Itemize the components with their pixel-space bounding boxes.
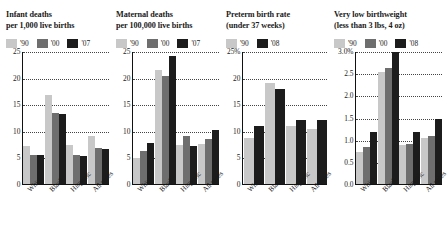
bar (265, 83, 275, 185)
plot-area: 0510152025%WhiteBlackHispanicAll races (243, 52, 327, 185)
chart-panel-0: Infant deaths per 1,000 live births'90'0… (0, 10, 110, 242)
legend-swatch-icon (257, 39, 268, 48)
bar (66, 145, 73, 185)
bar (52, 113, 59, 185)
legend-swatch-icon (147, 39, 158, 48)
plot-wrapper: 0.00.51.01.52.02.53.0%WhiteBlackHispanic… (356, 52, 445, 185)
y-axis-tick-label: 3.0% (338, 48, 356, 55)
y-axis-line (22, 52, 23, 185)
legend-label: '08 (409, 39, 418, 48)
bar-group (198, 52, 219, 185)
y-axis-line (242, 52, 243, 185)
legend-entry: '00 (37, 39, 60, 48)
bar (133, 158, 140, 185)
x-axis-labels: WhiteBlackHispanicAll races (23, 185, 109, 225)
legend-swatch-icon (395, 39, 406, 48)
legend-label: '00 (161, 39, 170, 48)
bar (176, 145, 183, 185)
plot-area: 0510152025WhiteBlackHispanicAll races (133, 52, 219, 185)
bar-group (176, 52, 197, 185)
bar (399, 145, 406, 185)
bar-group (45, 52, 66, 185)
chart-title: Infant deaths per 1,000 live births (6, 10, 110, 31)
bar-group (356, 52, 377, 185)
bar-group (421, 52, 442, 185)
legend-label: '90 (20, 39, 29, 48)
bar-group (399, 52, 420, 185)
bar-group (307, 52, 327, 185)
bar-group (244, 52, 264, 185)
bar-group (23, 52, 44, 185)
x-axis-labels: WhiteBlackHispanicAll races (133, 185, 219, 225)
bars-layer (356, 52, 442, 185)
y-axis-line (132, 52, 133, 185)
legend-entry: '08 (257, 39, 280, 48)
legend-swatch-icon (177, 39, 188, 48)
legend-label: '07 (81, 39, 90, 48)
bar-group (155, 52, 176, 185)
legend-entry: '08 (395, 39, 418, 48)
legend-label: '90 (240, 39, 249, 48)
legend-label: '08 (271, 39, 280, 48)
bar (155, 70, 162, 185)
legend-swatch-icon (37, 39, 48, 48)
bar-group (88, 52, 109, 185)
legend-entry: '00 (365, 39, 388, 48)
plot-area: 0510152025WhiteBlackHispanicAll races (23, 52, 109, 185)
chart-panel-1: Maternal deaths per 100,000 live births'… (110, 10, 220, 242)
bars-layer (133, 52, 219, 185)
legend-label: '00 (51, 39, 60, 48)
legend-entry: '07 (67, 39, 90, 48)
bar (59, 114, 66, 185)
bar (275, 89, 285, 185)
legend-label: '07 (191, 39, 200, 48)
bar-group (265, 52, 285, 185)
x-axis-labels: WhiteBlackHispanicAll races (243, 185, 327, 225)
bar-group (286, 52, 306, 185)
bar (378, 72, 385, 185)
bar (45, 95, 52, 185)
legend-label: '90 (130, 39, 139, 48)
bars-layer (243, 52, 327, 185)
bar (23, 146, 30, 185)
bar (162, 76, 169, 185)
chart-title: Very low birthweight (less than 3 lbs, 4… (334, 10, 445, 31)
x-axis-labels: WhiteBlackHispanicAll races (356, 185, 442, 225)
bar (385, 68, 392, 185)
y-axis-tick-label: 25% (227, 48, 243, 55)
legend-swatch-icon (67, 39, 78, 48)
bar (169, 56, 176, 185)
chart-title: Maternal deaths per 100,000 live births (116, 10, 220, 31)
bar (356, 152, 363, 185)
bar (286, 126, 296, 185)
plot-area: 0.00.51.01.52.02.53.0%WhiteBlackHispanic… (356, 52, 442, 185)
bar-group (66, 52, 87, 185)
legend-entry: '00 (147, 39, 170, 48)
chart-title: Preterm birth rate (under 37 weeks) (226, 10, 328, 31)
bar (392, 52, 399, 185)
bar (244, 138, 254, 185)
chart-panel-3: Very low birthweight (less than 3 lbs, 4… (328, 10, 445, 242)
bar-group (133, 52, 154, 185)
legend-swatch-icon (365, 39, 376, 48)
bar-group (378, 52, 399, 185)
legend-label: '00 (379, 39, 388, 48)
plot-wrapper: 0510152025WhiteBlackHispanicAll races (133, 52, 220, 185)
y-axis-line (355, 52, 356, 185)
plot-wrapper: 0510152025WhiteBlackHispanicAll races (23, 52, 110, 185)
legend-entry: '07 (177, 39, 200, 48)
chart-panel-2: Preterm birth rate (under 37 weeks)'90'0… (220, 10, 328, 242)
plot-wrapper: 0510152025%WhiteBlackHispanicAll races (243, 52, 328, 185)
bars-layer (23, 52, 109, 185)
